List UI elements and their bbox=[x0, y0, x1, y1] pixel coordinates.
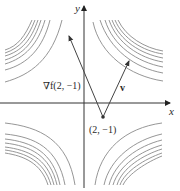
contours-upper-right bbox=[93, 20, 163, 81]
gradient-label: ∇f(2, −1) bbox=[43, 80, 81, 92]
gradient-vector bbox=[69, 36, 103, 117]
contours-upper-left bbox=[5, 20, 62, 82]
v-label: v bbox=[120, 82, 125, 93]
contour-diagram: y x ∇f(2, −1) v (2, −1) bbox=[0, 0, 180, 191]
point-label: (2, −1) bbox=[89, 124, 116, 136]
point-marker bbox=[101, 115, 105, 119]
y-axis-label: y bbox=[74, 2, 80, 14]
v-vector bbox=[103, 61, 129, 117]
x-axis-label: x bbox=[168, 105, 174, 117]
contours-lower-left bbox=[5, 123, 75, 185]
